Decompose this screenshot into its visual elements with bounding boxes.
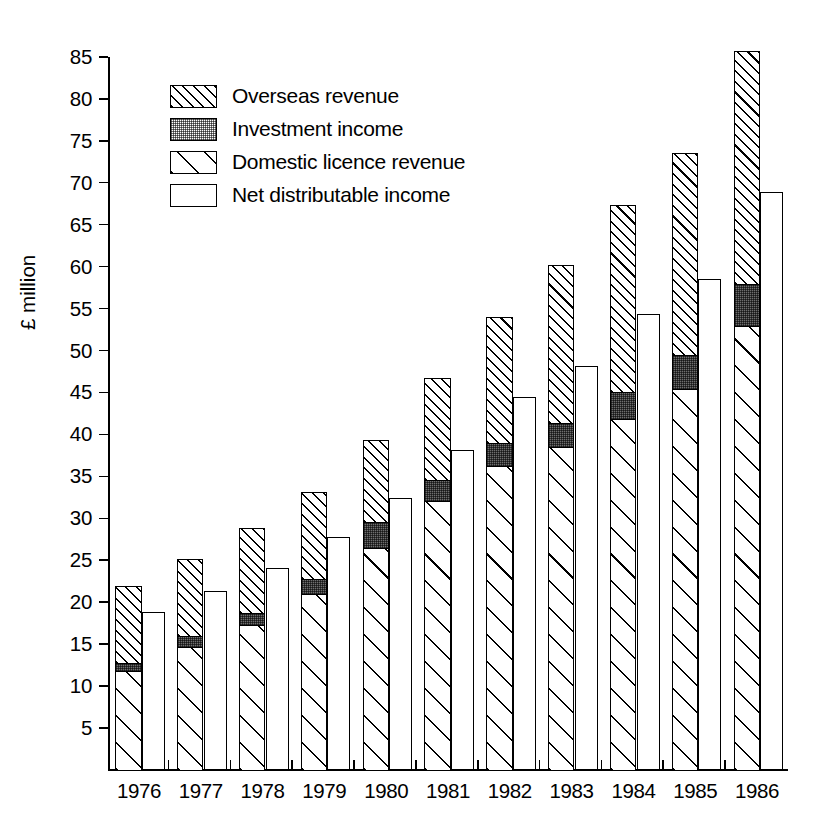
x-axis-tick-label: 1977 [170, 779, 232, 803]
y-axis-tick-label: 15 [0, 634, 92, 655]
bar-segment-domestic-licence-revenue [610, 420, 636, 770]
y-axis-tick [99, 518, 108, 520]
stacked-revenue-bar [117, 588, 140, 770]
bar-segment-investment-income [424, 481, 450, 502]
y-axis-tick [99, 559, 108, 561]
x-axis-tick-label: 1986 [726, 779, 788, 803]
y-axis-tick-label: 85 [0, 47, 92, 68]
legend-label-investment-income: Investment income [232, 117, 403, 141]
y-axis-tick-label: 25 [0, 550, 92, 571]
bar-segment-domestic-licence-revenue [424, 502, 450, 770]
bar-segment-overseas-revenue [363, 440, 389, 524]
bar-net-distributable-income [327, 537, 350, 770]
y-axis-tick-label: 70 [0, 173, 92, 194]
x-axis-tick-label: 1984 [603, 779, 665, 803]
bar-segment-overseas-revenue [548, 265, 574, 424]
legend-item-net-distributable-income: Net distributable income [170, 181, 465, 209]
stacked-revenue-bar [179, 560, 202, 770]
bar-net-distributable-income [760, 192, 783, 770]
bar-segment-investment-income [734, 285, 760, 327]
y-axis-tick [99, 182, 108, 184]
bar-segment-domestic-licence-revenue [486, 467, 512, 770]
legend-swatch-domestic-licence-revenue [170, 151, 217, 174]
y-axis-tick-label: 75 [0, 131, 92, 152]
y-axis-tick [99, 308, 108, 310]
bar-segment-overseas-revenue [424, 378, 450, 480]
bar-net-distributable-income [451, 450, 474, 770]
x-axis-tick-label: 1979 [293, 779, 355, 803]
bar-net-distributable-income [389, 498, 412, 770]
bar-segment-overseas-revenue [734, 51, 760, 285]
bar-segment-domestic-licence-revenue [177, 648, 203, 770]
stacked-revenue-bar [673, 155, 696, 770]
legend-swatch-investment-income [170, 118, 217, 141]
stacked-revenue-bar [735, 53, 758, 770]
bar-segment-investment-income [672, 356, 698, 390]
x-axis-tick-label: 1982 [479, 779, 541, 803]
x-axis-tick-label: 1985 [664, 779, 726, 803]
legend-swatch-overseas-revenue [170, 85, 217, 108]
legend-label-domestic-licence-revenue: Domestic licence revenue [232, 150, 465, 174]
bar-segment-domestic-licence-revenue [363, 549, 389, 770]
y-axis-tick-label: 80 [0, 89, 92, 110]
bar-segment-domestic-licence-revenue [548, 448, 574, 770]
bar-segment-overseas-revenue [301, 492, 327, 580]
legend-item-overseas-revenue: Overseas revenue [170, 82, 465, 110]
bar-segment-overseas-revenue [486, 317, 512, 444]
x-axis-tick-label: 1980 [355, 779, 417, 803]
bar-segment-domestic-licence-revenue [301, 595, 327, 770]
y-axis-tick-label: 55 [0, 299, 92, 320]
y-axis-tick [99, 685, 108, 687]
y-axis-tick [99, 224, 108, 226]
y-axis-tick [99, 476, 108, 478]
bar-segment-domestic-licence-revenue [734, 327, 760, 770]
bar-net-distributable-income [142, 612, 165, 770]
bar-net-distributable-income [698, 279, 721, 770]
y-axis-tick-label: 65 [0, 215, 92, 236]
y-axis-tick-label: 60 [0, 257, 92, 278]
bar-net-distributable-income [575, 366, 598, 770]
bar-segment-overseas-revenue [672, 153, 698, 355]
bar-net-distributable-income [513, 397, 536, 770]
bar-segment-domestic-licence-revenue [115, 672, 141, 770]
x-axis-tick-label: 1976 [108, 779, 170, 803]
y-axis-tick [99, 350, 108, 352]
bar-segment-overseas-revenue [239, 528, 265, 614]
legend-label-net-distributable-income: Net distributable income [232, 183, 450, 207]
y-axis-tick [99, 643, 108, 645]
x-axis-tick-label: 1981 [417, 779, 479, 803]
bar-segment-overseas-revenue [610, 205, 636, 393]
bar-segment-investment-income [177, 637, 203, 648]
y-axis-tick-label: 45 [0, 382, 92, 403]
y-axis-tick-label: 50 [0, 341, 92, 362]
y-axis-tick [99, 601, 108, 603]
legend-item-domestic-licence-revenue: Domestic licence revenue [170, 148, 465, 176]
stacked-revenue-bar [241, 530, 264, 770]
bar-segment-investment-income [548, 424, 574, 447]
chart-figure: £ million 510152025303540455055606570758… [0, 0, 821, 830]
stacked-revenue-bar [550, 267, 573, 770]
bar-segment-domestic-licence-revenue [239, 626, 265, 770]
bar-segment-investment-income [363, 523, 389, 549]
x-axis-tick-label: 1978 [232, 779, 294, 803]
y-axis-tick [99, 266, 108, 268]
stacked-revenue-bar [426, 380, 449, 770]
legend-swatch-net-distributable-income [170, 184, 217, 207]
bar-segment-domestic-licence-revenue [672, 390, 698, 770]
y-axis-tick [99, 392, 108, 394]
y-axis-tick [99, 56, 108, 58]
bar-segment-overseas-revenue [177, 559, 203, 638]
y-axis-tick-label: 5 [0, 718, 92, 739]
bar-segment-investment-income [486, 444, 512, 467]
stacked-revenue-bar [302, 493, 325, 770]
bar-segment-overseas-revenue [115, 586, 141, 664]
y-axis-tick [99, 434, 108, 436]
y-axis-tick-label: 35 [0, 466, 92, 487]
stacked-revenue-bar [612, 207, 635, 770]
y-axis-tick [99, 98, 108, 100]
stacked-revenue-bar [488, 319, 511, 770]
x-axis-tick-label: 1983 [541, 779, 603, 803]
bar-segment-investment-income [301, 580, 327, 596]
y-axis-tick [99, 727, 108, 729]
legend-item-investment-income: Investment income [170, 115, 465, 143]
